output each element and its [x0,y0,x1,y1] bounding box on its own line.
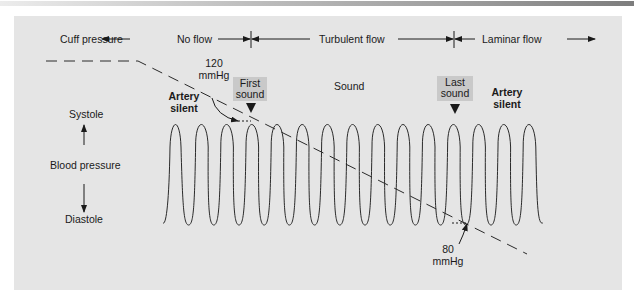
systolic-unit: mmHg [196,69,232,81]
diastolic-pointer [459,224,467,244]
diastole-label: Diastole [65,213,103,225]
artery-silent-left-line1: Artery [166,90,202,102]
diastolic-value-label: 80 mmHg [430,243,466,267]
artery-silent-left-label: Artery silent [166,90,202,114]
turbulent-flow-label: Turbulent flow [319,33,385,45]
last-sound-box: Last sound [437,76,473,101]
systolic-value-label: 120 mmHg [196,57,232,81]
systole-label: Systole [69,108,103,120]
sound-label: Sound [334,80,364,92]
no-flow-label: No flow [177,33,212,45]
blood-pressure-diagram [0,0,634,301]
systolic-value: 120 [196,57,232,69]
artery-silent-left-line2: silent [166,102,202,114]
first-sound-box: First sound [233,77,267,101]
laminar-flow-label: Laminar flow [482,33,542,45]
artery-silent-right-line2: silent [489,98,525,110]
artery-silent-right-line1: Artery [489,86,525,98]
arterial-pressure-wave [163,125,543,226]
blood-pressure-label: Blood pressure [50,159,121,171]
last-sound-line2: sound [437,88,473,99]
diastolic-value: 80 [430,243,466,255]
systolic-pointer [212,98,238,121]
cuff-pressure-label: Cuff pressure [60,33,123,45]
artery-silent-right-label: Artery silent [489,86,525,110]
diastolic-unit: mmHg [430,255,466,267]
first-sound-marker [246,103,256,113]
last-sound-marker [450,104,460,114]
first-sound-line2: sound [233,89,267,100]
